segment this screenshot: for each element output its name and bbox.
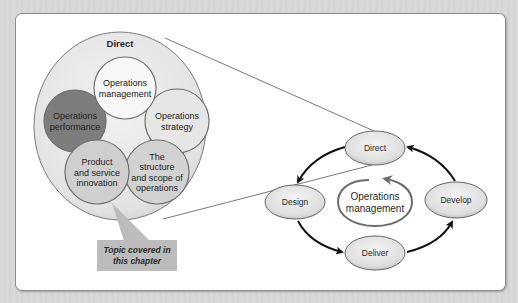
circle-label-line: Operations — [155, 111, 200, 121]
circle-label-line: innovation — [76, 178, 117, 188]
circle-label-line: structure — [139, 162, 174, 172]
center-label-line-2: management — [346, 203, 405, 214]
arrow-deliver-to-develop — [407, 222, 452, 252]
cycle-node-label: Direct — [364, 143, 387, 153]
circle-label-line: management — [99, 89, 152, 99]
cycle-node-design: Design — [265, 185, 325, 219]
cycle-node-label: Deliver — [362, 248, 389, 258]
direct-zoom-title: Direct — [107, 38, 135, 49]
circle-label-line: Operations — [103, 78, 148, 88]
cycle-node-label: Develop — [440, 195, 471, 205]
cycle-node-direct: Direct — [345, 131, 405, 165]
circle-label-line: and service — [74, 168, 120, 178]
circle-label-line: operations — [136, 183, 179, 193]
callout-text-line-1: Topic covered in — [103, 245, 170, 255]
circle-operations-management: Operationsmanagement — [94, 57, 156, 119]
cycle-node-label: Design — [282, 197, 309, 207]
callout-text-line-2: this chapter — [113, 256, 162, 266]
center-label-line-1: Operations — [351, 191, 400, 202]
arrow-design-to-deliver — [298, 221, 342, 252]
circle-label-line: performance — [50, 122, 101, 132]
arrow-develop-to-direct — [408, 147, 455, 181]
cycle-node-deliver: Deliver — [345, 236, 405, 270]
cycle-node-develop: Develop — [425, 182, 487, 218]
arrow-direct-to-design — [298, 147, 345, 182]
circle-structure-and-scope: Thestructureand scope ofoperations — [125, 140, 189, 204]
circle-product-and-service-innovation: Productand serviceinnovation — [65, 140, 129, 204]
circle-label-line: and scope of — [131, 173, 183, 183]
circle-label-line: The — [149, 152, 165, 162]
circle-label-line: Operations — [53, 111, 98, 121]
circle-label-line: strategy — [161, 122, 194, 132]
operations-model-diagram: Direct OperationsperformanceOperationsst… — [0, 0, 518, 303]
circle-label-line: Product — [81, 157, 113, 167]
